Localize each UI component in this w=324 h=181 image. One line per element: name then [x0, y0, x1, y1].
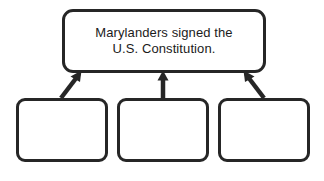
- arrow-left-icon: [61, 71, 82, 99]
- supporting-detail-box-3[interactable]: [218, 98, 310, 162]
- main-idea-text: Marylanders signed the U.S. Constitution…: [89, 25, 238, 57]
- main-idea-box[interactable]: Marylanders signed the U.S. Constitution…: [62, 9, 266, 73]
- supporting-detail-box-2[interactable]: [117, 98, 209, 162]
- diagram-canvas: Marylanders signed the U.S. Constitution…: [0, 0, 324, 181]
- arrow-middle-icon: [158, 71, 169, 100]
- arrow-right-icon: [244, 71, 265, 99]
- supporting-detail-box-1[interactable]: [16, 98, 108, 162]
